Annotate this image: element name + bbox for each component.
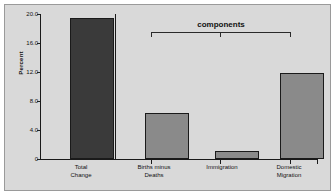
category-label-births-minus-deaths: Births minus Deaths <box>121 163 187 179</box>
bar-chart-figure: Percent 20.0 16.0 12.0 8.0 4.0 0 <box>0 0 335 195</box>
y-tick-label-20: 20.0 <box>8 11 38 17</box>
value-axis-line <box>40 14 41 160</box>
y-axis-tick-labels: 20.0 16.0 12.0 8.0 4.0 0 <box>5 14 38 159</box>
bracket-tick-middle <box>220 32 221 37</box>
category-label-immigration: Immigration <box>190 163 254 171</box>
y-tick-label-0: 0 <box>8 156 38 162</box>
group-divider-line <box>115 14 116 160</box>
y-tick-label-4: 4.0 <box>8 127 38 133</box>
components-annotation-label: components <box>151 20 291 29</box>
bar-domestic-migration <box>280 73 324 159</box>
bracket-tick-left <box>151 32 152 37</box>
bracket-span-line <box>151 32 291 33</box>
category-label-domestic-migration: Domestic Migration <box>258 163 320 179</box>
bracket-tick-right <box>290 32 291 37</box>
components-bracket <box>151 32 291 38</box>
y-tick-label-16: 16.0 <box>8 40 38 46</box>
bar-total-change <box>70 18 114 159</box>
bar-immigration <box>215 151 259 159</box>
y-tick-label-12: 12.0 <box>8 69 38 75</box>
category-label-total-change: Total Change <box>51 163 111 179</box>
category-axis-line <box>40 159 318 160</box>
bar-births-minus-deaths <box>145 113 189 159</box>
y-tick-label-8: 8.0 <box>8 98 38 104</box>
chart-frame: Percent 20.0 16.0 12.0 8.0 4.0 0 <box>4 4 331 191</box>
